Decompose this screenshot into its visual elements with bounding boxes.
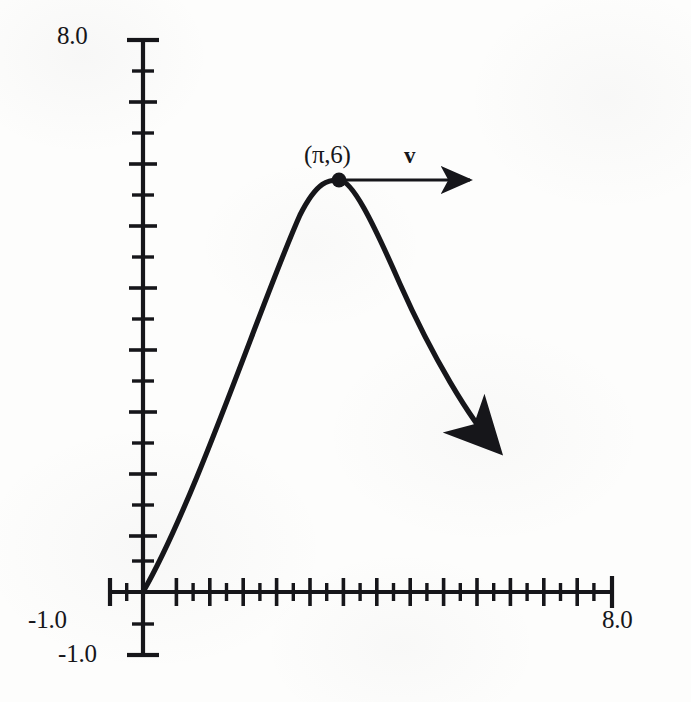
y-axis-min-label: -1.0 [58,640,97,668]
x-axis-max-label: 8.0 [602,606,633,634]
plot-canvas [0,0,691,702]
y-axis-max-label: 8.0 [57,22,88,50]
trajectory-curve [143,180,497,592]
velocity-vector-label: v [404,143,416,169]
graph-figure: 8.0 -1.0 -1.0 8.0 (π,6) v [0,0,691,702]
vertex-point-label: (π,6) [304,141,351,169]
vertex-point-marker [332,173,347,188]
x-axis-min-label: -1.0 [28,606,67,634]
